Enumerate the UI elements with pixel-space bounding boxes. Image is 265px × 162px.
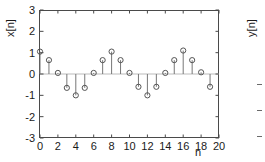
y-tick-label: 2: [9, 26, 35, 36]
stem-plot-canvas: [0, 0, 265, 162]
right-plot-tick-2: [257, 110, 262, 111]
figure-screenshot: x[n] n 3210-1-2-3 02468101214161820 y[n]: [0, 0, 265, 162]
y-tick-label: 1: [9, 48, 35, 58]
stem-plot-xn: x[n] n 3210-1-2-3 02468101214161820: [0, 0, 230, 162]
y-axis-label-right: y[n]: [245, 8, 257, 48]
stem-plot-yn-clipped: y[n]: [230, 0, 265, 162]
y-tick-label: -1: [9, 90, 35, 100]
right-plot-tick-3: [257, 136, 262, 137]
y-tick-label: 0: [9, 69, 35, 79]
y-tick-label: 3: [9, 5, 35, 15]
right-plot-tick-1: [257, 84, 262, 85]
x-tick-label: 20: [209, 141, 229, 151]
y-tick-label: -2: [9, 112, 35, 122]
